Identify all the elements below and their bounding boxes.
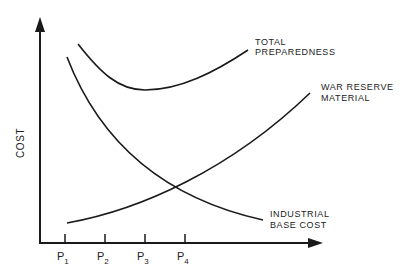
total-preparedness-curve [78, 44, 248, 90]
war-reserve-material-curve [67, 93, 310, 223]
y-axis-label: COST [15, 128, 26, 158]
industrial-base-label-line2: BASE COST [270, 220, 327, 230]
industrial-base-cost-curve [67, 57, 263, 220]
tick-label-p2: P2 [97, 250, 109, 266]
total-preparedness-label-line2: PREPAREDNESS [255, 47, 336, 57]
tick-label-p4: P4 [177, 250, 189, 266]
y-axis-arrow-icon [35, 17, 45, 32]
war-reserve-label-line2: MATERIAL [321, 93, 370, 103]
x-axis-arrow-icon [308, 238, 323, 248]
cost-tradeoff-diagram: P1 P2 P3 P4 COST TOTAL PREPAREDNESS WAR … [0, 0, 413, 276]
industrial-base-label-line1: INDUSTRIAL [270, 209, 330, 219]
war-reserve-label-line1: WAR RESERVE [321, 82, 394, 92]
total-preparedness-label-line1: TOTAL [255, 37, 286, 47]
tick-label-p1: P1 [57, 250, 69, 266]
tick-label-p3: P3 [137, 250, 149, 266]
